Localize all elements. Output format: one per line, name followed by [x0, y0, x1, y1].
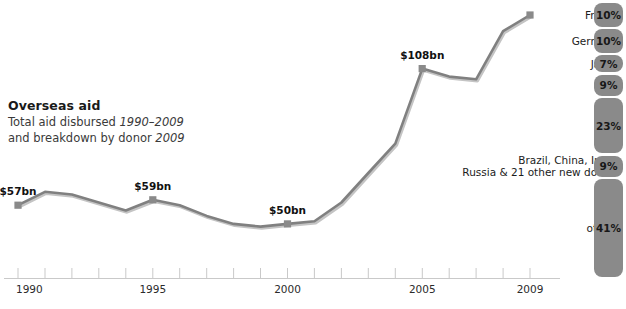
data-point-value-label: $50bn [269, 204, 306, 216]
x-axis-label-1990: 1990 [16, 283, 43, 295]
data-point-marker [284, 220, 291, 227]
donor-bar[interactable]: 10% [594, 3, 623, 27]
donor-bar[interactable]: 10% [594, 29, 623, 53]
x-axis-label-2000: 2000 [274, 283, 301, 295]
data-point-value-label: $59bn [134, 180, 171, 192]
donor-percent: 41% [596, 222, 621, 234]
data-point-value-label: $57bn [0, 185, 36, 197]
donor-segment-japan[interactable]: Japan7% [430, 55, 626, 72]
donor-bar[interactable]: 9% [594, 156, 623, 177]
donor-bar[interactable]: 9% [594, 75, 623, 96]
donor-bar[interactable]: 23% [594, 98, 623, 153]
donor-segment-germany[interactable]: Germany10% [430, 29, 626, 53]
donor-segment-uk[interactable]: UK9% [430, 75, 626, 96]
donor-percent: 9% [600, 79, 618, 91]
overseas-aid-infographic: Overseas aid Total aid disbursed 1990–20… [0, 0, 626, 309]
donor-bar[interactable]: 7% [594, 55, 623, 72]
donor-segment-others[interactable]: others41% [430, 179, 626, 277]
x-axis-label-1995: 1995 [139, 283, 166, 295]
donor-segment-brazil[interactable]: Brazil, China, India, Russia & 21 other … [430, 156, 626, 177]
donor-percent: 23% [596, 120, 621, 132]
donor-percent: 10% [596, 9, 621, 21]
data-point-marker [419, 65, 426, 72]
donor-percent: 7% [600, 58, 618, 70]
donor-segment-france[interactable]: France10% [430, 3, 626, 27]
data-point-marker [149, 196, 156, 203]
data-point-marker [14, 202, 21, 209]
donor-percent: 9% [600, 160, 618, 172]
donor-percent: 10% [596, 35, 621, 47]
donor-bar[interactable]: 41% [594, 179, 623, 277]
donor-breakdown-panel: France10%Germany10%Japan7%UK9%USA23%Braz… [430, 0, 626, 309]
donor-segment-usa[interactable]: USA23% [430, 98, 626, 153]
